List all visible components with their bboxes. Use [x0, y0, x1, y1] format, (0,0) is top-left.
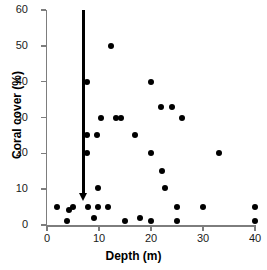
data-point [91, 215, 97, 221]
data-point [137, 215, 143, 221]
arrow-shaft [82, 10, 84, 195]
x-tick-10 [98, 226, 100, 231]
data-point [169, 104, 175, 110]
x-tick-40 [254, 226, 256, 231]
plot-area [47, 10, 255, 225]
y-tick-label-0: 0 [6, 219, 28, 230]
y-tick-label-60: 60 [6, 4, 28, 15]
data-point [216, 150, 222, 156]
y-tick-50 [41, 45, 46, 47]
coral-cover-depth-scatter-chart: 0102030405060 010203040 Depth (m) Coral … [0, 0, 267, 270]
data-point [54, 204, 60, 210]
y-tick-60 [41, 9, 46, 11]
data-point [158, 104, 164, 110]
data-point [148, 150, 154, 156]
data-point [105, 204, 111, 210]
x-tick-label-30: 30 [191, 233, 215, 244]
data-point [200, 204, 206, 210]
x-tick-30 [202, 226, 204, 231]
data-point [159, 168, 165, 174]
data-point [179, 115, 185, 121]
data-point [132, 132, 138, 138]
data-point [98, 115, 104, 121]
x-tick-20 [150, 226, 152, 231]
data-point [64, 218, 70, 224]
data-point [122, 218, 128, 224]
data-point [94, 132, 100, 138]
data-point [148, 79, 154, 85]
data-point [174, 218, 180, 224]
data-point [252, 204, 258, 210]
data-point [162, 185, 168, 191]
data-point [252, 218, 258, 224]
data-point [95, 204, 101, 210]
y-tick-20 [41, 153, 46, 155]
y-tick-30 [41, 117, 46, 119]
data-point [118, 115, 124, 121]
x-tick-label-0: 0 [35, 233, 59, 244]
arrow-head [79, 193, 87, 201]
x-tick-label-10: 10 [87, 233, 111, 244]
y-tick-0 [41, 224, 46, 226]
data-point [95, 185, 101, 191]
x-tick-0 [46, 226, 48, 231]
x-axis-title: Depth (m) [0, 249, 267, 263]
x-tick-label-40: 40 [243, 233, 267, 244]
y-axis-title: Coral cover (%) [10, 45, 24, 185]
data-point [148, 218, 154, 224]
x-tick-label-20: 20 [139, 233, 163, 244]
data-point [70, 204, 76, 210]
y-tick-40 [41, 81, 46, 83]
data-point [174, 204, 180, 210]
data-point [85, 204, 91, 210]
y-tick-10 [41, 188, 46, 190]
data-point [108, 43, 114, 49]
